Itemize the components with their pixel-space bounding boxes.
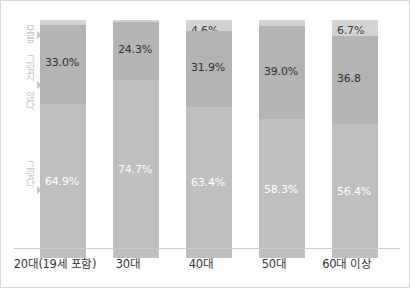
bar-column[interactable]: 4.6% 31.9% 63.4% [186,20,232,258]
bar-segment-disagree[interactable]: 36.8 [332,36,378,124]
series-label-disagree: 그렇지 않다 [20,54,36,109]
stacked-bar-chart: 모름 그렇지 않다 그렇다 2.1% 33.0% 64.9% [0,0,411,289]
bar-segment-agree[interactable]: 74.7% [113,80,159,258]
bar-segment-value: 31.9% [191,61,225,74]
bar-column[interactable]: 2.7% 39.0% 58.3% [259,20,305,258]
bar-segment-agree[interactable]: 58.3% [259,119,305,258]
bar-segment-dontknow[interactable]: 4.6% [186,20,232,31]
bar-segment-value: 63.4% [191,176,225,189]
bar-segment-disagree[interactable]: 24.3% [113,22,159,80]
bar-segment-value: 74.7% [118,163,152,176]
series-label-dontknow: 모름 [20,24,36,42]
bar-stack: 6.7% 36.8 56.4% [332,20,378,258]
bar-stack: 4.6% 31.9% 63.4% [186,20,232,258]
bar-segment-value: 4.6% [191,24,218,31]
bar-segment-value: 56.4% [337,184,371,197]
series-label-agree: 그렇다 [20,160,36,187]
bar-segment-value: 39.0% [264,65,298,78]
bar-segment-value: 6.7% [337,24,364,36]
bar-column[interactable]: 2.1% 33.0% 64.9% [40,20,86,258]
bar-segment-value: 64.9% [45,174,79,187]
bar-stack: 2.1% 33.0% 64.9% [40,20,86,258]
bar-segment-agree[interactable]: 56.4% [332,124,378,258]
bar-stack: 2.7% 39.0% 58.3% [259,20,305,258]
bar-segment-disagree[interactable]: 33.0% [40,25,86,104]
plot-area: 모름 그렇지 않다 그렇다 2.1% 33.0% 64.9% [8,10,403,248]
bar-segment-value: 24.3% [118,44,152,57]
bar-segment-disagree[interactable]: 31.9% [186,31,232,107]
bar-segment-dontknow[interactable]: 6.7% [332,20,378,36]
bar-column[interactable]: 6.7% 36.8 56.4% [332,20,378,258]
bar-segment-agree[interactable]: 64.9% [40,104,86,258]
bar-segment-disagree[interactable]: 39.0% [259,26,305,119]
x-tick-label: 60대 이상 [292,255,402,271]
bar-segment-value: 36.8 [337,72,361,85]
bar-segment-value: 58.3% [264,182,298,195]
bar-column[interactable]: 1.0% 24.3% 74.7% [113,20,159,258]
bar-segment-agree[interactable]: 63.4% [186,107,232,258]
bar-segment-value: 33.0% [45,57,79,70]
bar-stack: 1.0% 24.3% 74.7% [113,20,159,258]
x-axis-line [14,248,400,249]
